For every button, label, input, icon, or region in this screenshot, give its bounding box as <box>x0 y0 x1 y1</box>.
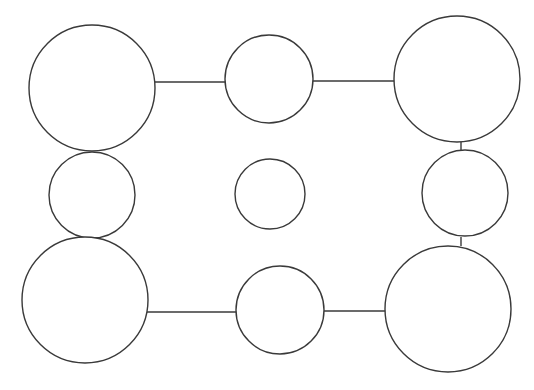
node-top-middle <box>225 35 313 123</box>
node-bottom-right <box>385 246 511 372</box>
node-bottom-middle <box>236 266 324 354</box>
node-top-left <box>29 25 155 151</box>
node-graph-diagram <box>0 0 534 390</box>
node-middle-right <box>422 150 508 236</box>
node-bottom-left <box>22 237 148 363</box>
diagram-canvas <box>0 0 534 390</box>
node-middle-left <box>49 152 135 238</box>
node-center <box>235 159 305 229</box>
node-top-right <box>394 16 520 142</box>
